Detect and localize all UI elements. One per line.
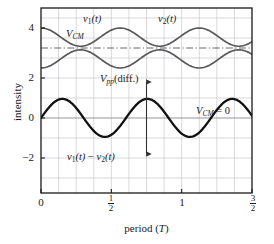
x-axis-title-suffix: ) bbox=[165, 222, 169, 234]
x-axis-title-prefix: period ( bbox=[124, 222, 159, 234]
annotation-v2-argument: (t) bbox=[166, 13, 176, 24]
figure-container: 4 2 0 −2 0 1 2 1 3 2 intensity period (T… bbox=[0, 0, 274, 244]
annotation-vcm-zero-rest: = 0 bbox=[214, 105, 230, 116]
x-tick-label-1: 1 bbox=[174, 197, 190, 208]
x-axis-title: period (T) bbox=[41, 222, 252, 234]
annotation-diff-v2-argument: (t) bbox=[105, 151, 115, 162]
annotation-vpp-subscript: pp bbox=[106, 77, 114, 86]
x-tick-threehalves-denominator: 2 bbox=[250, 204, 257, 213]
y-tick-label-4: 4 bbox=[10, 22, 34, 33]
annotation-diff-v1-argument: (t) bbox=[75, 151, 85, 162]
annotation-vpp: Vpp(diff.) bbox=[100, 73, 139, 86]
annotation-vcm-zero-subscript: CM bbox=[202, 109, 213, 118]
x-tick-label-half: 1 2 bbox=[103, 194, 119, 214]
annotation-vcm-subscript: CM bbox=[72, 32, 83, 41]
annotation-vcm: VCM bbox=[66, 28, 84, 41]
annotation-vcm-zero: VCM = 0 bbox=[196, 105, 230, 118]
annotation-difference: v1(t) − v2(t) bbox=[67, 151, 115, 164]
annotation-v1: v1(t) bbox=[83, 13, 101, 26]
x-tick-label-0: 0 bbox=[33, 197, 49, 208]
x-tick-half-denominator: 2 bbox=[108, 204, 115, 213]
annotation-vpp-rest: (diff.) bbox=[114, 73, 139, 84]
annotation-diff-minus: − bbox=[85, 151, 96, 162]
y-tick-label-minus2: −2 bbox=[6, 152, 34, 163]
y-axis-title: intensity bbox=[11, 67, 23, 137]
x-tick-label-three-halves: 3 2 bbox=[245, 194, 261, 214]
annotation-v2: v2(t) bbox=[158, 13, 176, 26]
annotation-v1-argument: (t) bbox=[91, 13, 101, 24]
